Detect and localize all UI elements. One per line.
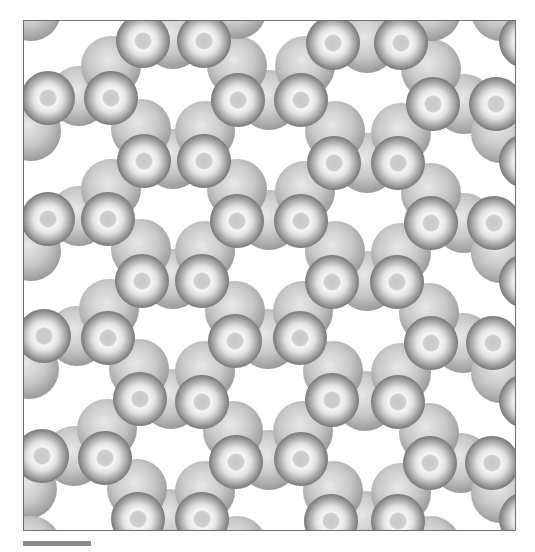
front-atom-sphere <box>23 71 75 125</box>
front-atom-sphere <box>307 136 361 190</box>
front-atom-sphere <box>211 73 265 127</box>
front-atom-sphere <box>404 316 458 370</box>
front-atom-sphere <box>371 375 425 429</box>
front-atom-sphere <box>274 194 328 248</box>
front-atom-sphere <box>404 196 458 250</box>
front-atom-sphere <box>305 373 359 427</box>
front-atom-sphere <box>273 311 327 365</box>
back-atom-sphere <box>23 20 61 41</box>
front-atom-sphere <box>175 375 229 429</box>
front-atom-sphere <box>115 254 169 308</box>
molecular-lattice-figure <box>23 20 516 531</box>
front-atom-sphere <box>177 134 231 188</box>
front-atom-sphere <box>209 435 263 489</box>
front-atom-sphere <box>113 372 167 426</box>
front-atom-sphere <box>406 77 460 131</box>
front-atom-sphere <box>81 311 135 365</box>
front-atom-sphere <box>371 136 425 190</box>
front-atom-sphere <box>175 254 229 308</box>
front-atom-sphere <box>208 314 262 368</box>
front-atom-sphere <box>117 134 171 188</box>
front-atom-sphere <box>403 436 457 490</box>
front-atom-sphere <box>274 432 328 486</box>
front-atom-sphere <box>274 73 328 127</box>
scale-bar <box>23 541 91 546</box>
front-atom-sphere <box>210 194 264 248</box>
front-atom-sphere <box>81 192 135 246</box>
front-atom-sphere <box>78 431 132 485</box>
front-atom-sphere <box>370 255 424 309</box>
back-atom-sphere <box>23 516 61 531</box>
front-atom-sphere <box>305 255 359 309</box>
front-atom-sphere <box>23 192 75 246</box>
front-atom-sphere <box>84 71 138 125</box>
lattice-render <box>23 20 516 531</box>
